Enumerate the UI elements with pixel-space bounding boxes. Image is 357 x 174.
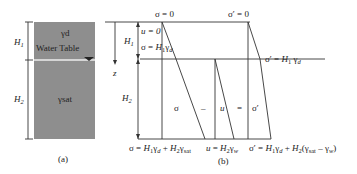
eq-u: u	[220, 103, 225, 113]
sigma-prime-wt-label: σ′ = H1 γd	[265, 54, 301, 65]
arrow-down-icon	[136, 134, 140, 139]
arrow-up-icon	[136, 22, 140, 27]
soil-column	[34, 22, 95, 139]
caption-a: (a)	[58, 154, 68, 164]
panel-a: H1 H2 γd Water Table γsat (a)	[13, 22, 95, 164]
bottom-sigma-label: σ = H1γd + H2γsat	[129, 143, 191, 154]
eq-minus: –	[200, 103, 206, 113]
arrow-down-icon	[136, 54, 140, 59]
caption-b: (b)	[218, 156, 229, 166]
gamma-d-label: γd	[60, 28, 70, 38]
dim-label-h1-b: H1	[123, 36, 134, 47]
stress-diagram-figure: H1 H2 γd Water Table γsat (a) z H1 H2	[0, 0, 357, 174]
panel-b: z H1 H2 σ = 0 σ′ = 0 u = 0 σ = H1γd σ′ =…	[105, 9, 336, 166]
eq-equals: =	[237, 103, 242, 113]
sigma-profile	[162, 22, 205, 139]
sigma-wt-label: σ = H1γd	[141, 42, 173, 53]
top-sigma-prime-label: σ′ = 0	[228, 9, 249, 19]
eq-sigma-prime: σ′	[252, 103, 259, 113]
eq-sigma: σ	[174, 103, 179, 113]
sigma-prime-profile	[248, 22, 271, 139]
u-zero-label: u = 0	[141, 26, 161, 36]
top-sigma-label: σ = 0	[155, 9, 174, 19]
z-arrow-icon	[113, 60, 117, 65]
water-table-label: Water Table	[36, 43, 79, 53]
dim-label-h1: H1	[13, 37, 24, 48]
dim-label-h2: H2	[13, 94, 25, 105]
bottom-u-label: u = H2γw	[206, 143, 239, 154]
u-profile	[215, 59, 234, 139]
bottom-sigma-prime-label: σ′ = H1γd + H2(γsat – γw)	[249, 143, 336, 154]
dim-label-h2-b: H2	[121, 93, 133, 104]
gamma-sat-label: γsat	[57, 94, 72, 104]
z-label: z	[112, 68, 117, 78]
arrow-up-icon	[136, 59, 140, 64]
